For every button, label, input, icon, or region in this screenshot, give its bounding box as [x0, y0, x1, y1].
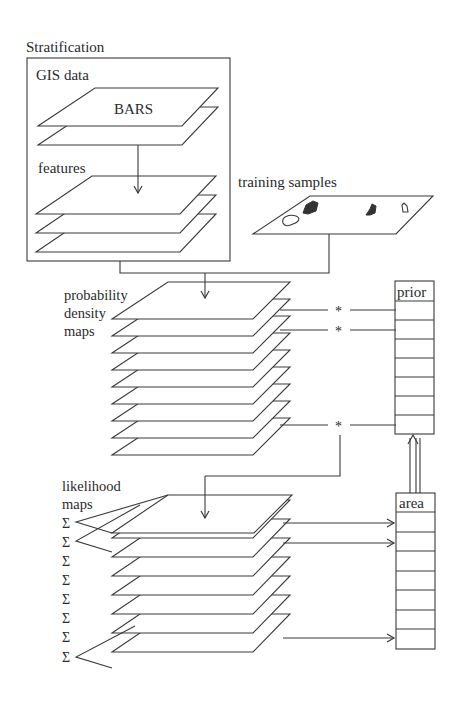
prior-header: prior [397, 284, 426, 300]
stratification-title: Stratification [26, 39, 105, 55]
prior-table: prior [395, 281, 434, 434]
sum-symbol-2: Σ [62, 535, 70, 550]
training-samples-group: training samples [238, 174, 433, 234]
sum-symbol-3: Σ [62, 554, 70, 569]
training-plane [253, 196, 433, 234]
sum-symbol-7: Σ [62, 630, 70, 645]
probability-label-2: density [64, 305, 107, 321]
bars-label: BARS [114, 101, 153, 117]
probability-label-1: probability [64, 287, 128, 303]
area-to-prior-arrow [408, 435, 420, 493]
likelihood-label-1: likelihood [62, 478, 122, 494]
gis-data-label: GIS data [36, 67, 89, 83]
sum-symbol-4: Σ [62, 573, 70, 588]
features-label: features [38, 160, 86, 176]
likelihood-label-2: maps [62, 496, 93, 512]
area-header: area [399, 495, 424, 511]
stratification-group: Stratification GIS data BARS features [26, 39, 230, 261]
probability-label-3: maps [64, 323, 95, 339]
area-table: area [396, 493, 435, 649]
probability-maps-group: probability density maps [64, 282, 290, 455]
sum-symbol-5: Σ [62, 592, 70, 607]
likelihood-maps-group: likelihood maps Σ Σ Σ Σ Σ Σ Σ Σ [62, 478, 292, 668]
sum-symbol-6: Σ [62, 611, 70, 626]
multiply-symbol-2: * [335, 324, 342, 339]
multiply-symbol-1: * [335, 304, 342, 319]
sum-symbol-1: Σ [62, 516, 70, 531]
multiply-symbol-3: * [335, 419, 342, 434]
area-links [283, 523, 394, 638]
training-samples-label: training samples [238, 174, 337, 190]
stratification-flow-diagram: Stratification GIS data BARS features tr… [0, 0, 457, 702]
sum-symbol-8: Σ [62, 650, 70, 665]
